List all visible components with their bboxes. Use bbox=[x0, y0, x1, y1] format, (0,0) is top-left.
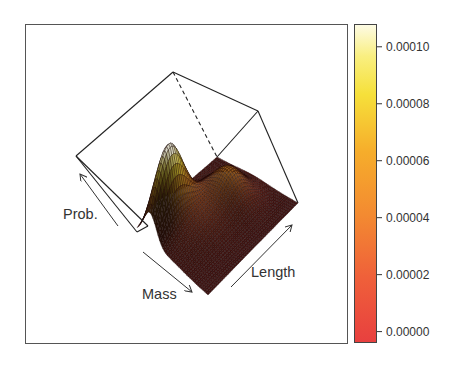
colorbar bbox=[355, 25, 377, 343]
colorbar-tick-label: 0.00008 bbox=[386, 97, 430, 111]
colorbar-ticks: 0.000000.000020.000040.000060.000080.000… bbox=[377, 40, 430, 339]
colorbar-tick-label: 0.00006 bbox=[386, 154, 430, 168]
prob-axis-label: Prob. bbox=[63, 206, 98, 222]
mass-axis-label: Mass bbox=[142, 286, 177, 302]
colorbar-tick-label: 0.00002 bbox=[386, 268, 430, 282]
colorbar-tick-label: 0.00010 bbox=[386, 40, 430, 54]
surface-chart: Prob. Mass Length 0.000000.000020.000040… bbox=[0, 0, 462, 365]
hidden-edge bbox=[173, 72, 217, 157]
colorbar-tick-label: 0.00004 bbox=[386, 211, 430, 225]
colorbar-tick-label: 0.00000 bbox=[386, 325, 430, 339]
length-axis-label: Length bbox=[251, 264, 295, 280]
